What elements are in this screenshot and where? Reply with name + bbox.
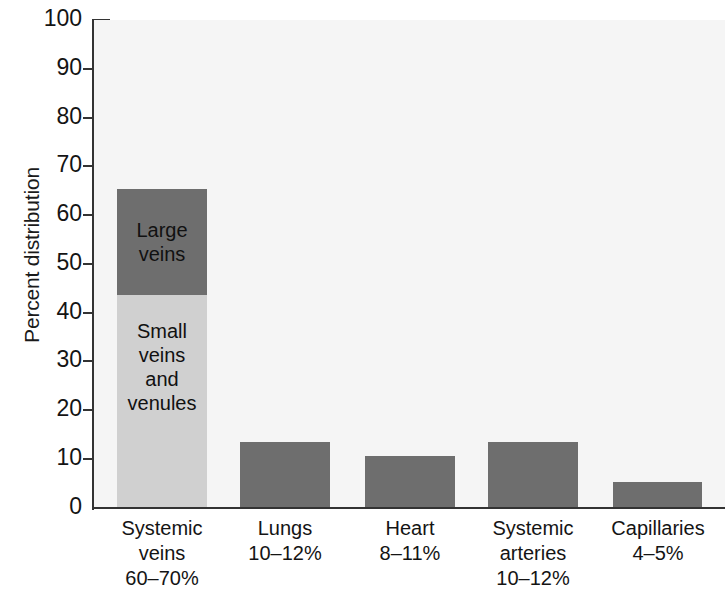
y-tick-label: 90	[26, 56, 82, 79]
bar-segment-small-veins-and-venules[interactable]: Small veins and venules	[117, 295, 207, 507]
y-tick-label: 60	[26, 202, 82, 225]
plot-area: Small veins and venules Large veins	[94, 20, 725, 507]
bar-systemic-veins[interactable]: Small veins and venules Large veins	[117, 189, 207, 507]
y-tick-label: 50	[26, 251, 82, 274]
bar-segment-label-small-veins: Small veins and venules	[117, 319, 207, 415]
x-axis-line	[92, 507, 725, 509]
y-tick-label: 10	[26, 446, 82, 469]
y-tick-label: 30	[26, 348, 82, 371]
x-category-label-capillaries: Capillaries 4–5%	[563, 516, 727, 566]
y-tick-label: 100	[26, 7, 82, 30]
bar-lungs[interactable]	[240, 442, 330, 507]
y-tick-label: 80	[26, 105, 82, 128]
y-tick-label: 20	[26, 397, 82, 420]
bar-chart-figure: Percent distribution 100 90 80 70 60 50 …	[0, 0, 727, 607]
y-tick-label: 40	[26, 300, 82, 323]
bar-segment-label-large-veins: Large veins	[117, 218, 207, 266]
y-tick-label: 0	[26, 495, 82, 518]
y-tick-label: 70	[26, 153, 82, 176]
bar-heart[interactable]	[365, 456, 455, 507]
bar-systemic-arteries[interactable]	[488, 442, 578, 507]
bar-segment-large-veins[interactable]: Large veins	[117, 189, 207, 295]
bar-capillaries[interactable]	[613, 482, 702, 507]
